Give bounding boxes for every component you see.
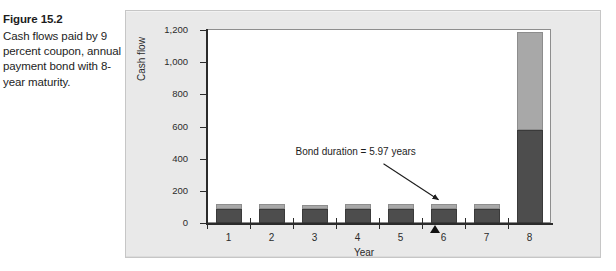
figure-container: Figure 15.2 Cash flows paid by 9 percent…	[0, 0, 616, 271]
figure-caption-text: Cash flows paid by 9 percent coupon, ann…	[3, 29, 121, 90]
chart-panel: Cash flow Year 02004006008001,0001,200 1…	[125, 10, 601, 258]
annotation-arrow-icon	[126, 11, 602, 259]
bond-duration-marker-icon	[430, 225, 440, 233]
figure-number: Figure 15.2	[3, 12, 121, 27]
figure-caption-block: Figure 15.2 Cash flows paid by 9 percent…	[3, 12, 121, 90]
